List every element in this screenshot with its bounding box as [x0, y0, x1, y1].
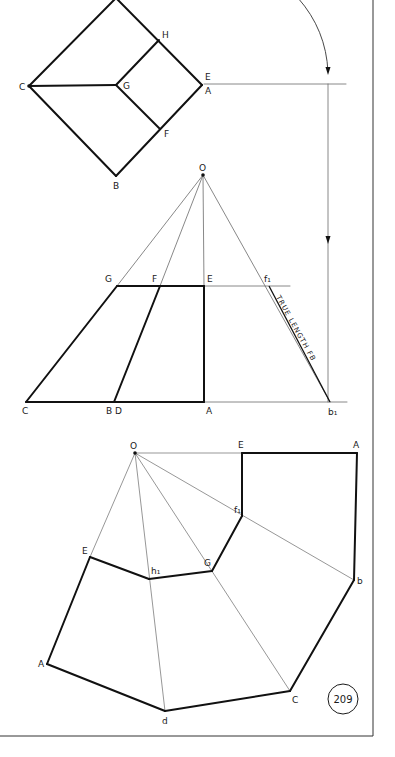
arrow-down-icon [326, 67, 331, 75]
point-label: E [207, 274, 213, 284]
point-label: f₁ [264, 274, 271, 284]
page-number-badge: 209 [328, 684, 358, 714]
edge-line [29, 0, 116, 86]
projection-line [203, 175, 204, 286]
point-label: A [353, 440, 360, 450]
point-label: f₁ [234, 505, 241, 515]
projection-line [160, 175, 203, 286]
point-label: A [38, 659, 45, 669]
apex-dot [133, 451, 137, 455]
point-label: G [204, 558, 211, 568]
point-label: F [152, 274, 157, 284]
pattern-edge [212, 516, 242, 571]
point-label: A [206, 406, 213, 416]
edge-line [29, 86, 116, 176]
point-label: D [115, 406, 122, 416]
orthographic-drawing: HCGEAFB OGFEf₁CBDAb₁TRUE LENGTH FB OEAf₁… [0, 0, 395, 757]
point-label: O [130, 441, 137, 451]
point-label: O [199, 163, 206, 173]
point-label: F [164, 129, 169, 139]
point-label: B [106, 406, 112, 416]
pattern-edge [47, 557, 90, 664]
pattern-edge [290, 580, 354, 691]
point-label: E [238, 440, 244, 450]
edge-line [116, 85, 160, 129]
vertex-dot [27, 84, 31, 88]
point-label: E [82, 546, 88, 556]
projection-line [117, 175, 203, 286]
point-label: b [357, 576, 363, 586]
page-number: 209 [333, 694, 352, 705]
edge-line [114, 286, 160, 402]
radial-line [90, 453, 135, 557]
point-label: d [162, 716, 168, 726]
point-label: G [105, 274, 112, 284]
point-label: G [123, 81, 130, 91]
rotation-arc [298, 0, 328, 72]
point-label: C [292, 695, 298, 705]
point-label: C [19, 82, 25, 92]
point-label: B [113, 181, 119, 191]
development-view: OEAf₁Gh₁EbACd [38, 440, 363, 726]
point-label: b₁ [328, 407, 338, 417]
apex-dot [201, 173, 205, 177]
point-label: E [205, 72, 211, 82]
true-length-annotation: TRUE LENGTH FB [274, 293, 317, 363]
point-label: C [22, 406, 28, 416]
point-label: A [205, 86, 212, 96]
pattern-edge [354, 453, 357, 580]
page-border [0, 0, 373, 736]
pattern-edge [90, 557, 149, 579]
pattern-edge [165, 691, 290, 711]
pattern-edge [47, 664, 165, 711]
edge-line [26, 286, 117, 402]
edge-line [29, 85, 116, 86]
point-label: h₁ [151, 566, 161, 576]
elevation-view: OGFEf₁CBDAb₁TRUE LENGTH FB [22, 0, 347, 417]
point-label: H [162, 30, 169, 40]
projection-line [203, 175, 330, 402]
edge-line [116, 40, 159, 85]
radial-line [135, 453, 354, 580]
arrow-down-icon [326, 236, 331, 244]
plan-view: HCGEAFB [19, 0, 346, 191]
